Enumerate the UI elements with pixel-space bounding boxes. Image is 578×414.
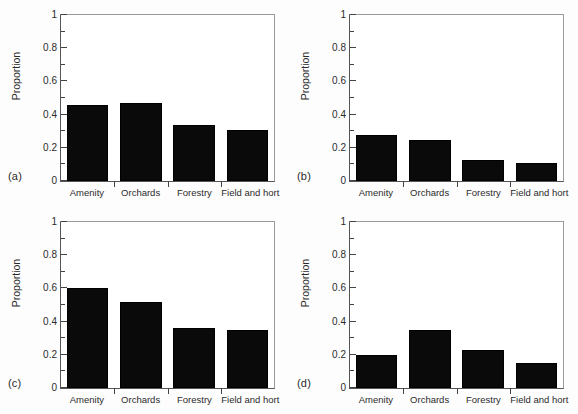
y-axis-title-a: Proportion <box>10 36 22 116</box>
panel-c: (c) Proportion 00.20.40.60.81 AmenityOrc… <box>0 207 289 414</box>
x-axis-labels-b: AmenityOrchardsForestryField and hort <box>349 186 564 202</box>
y-tick-label-b-5: 1 <box>340 10 346 20</box>
y-tick-minor-d-4 <box>350 238 354 239</box>
y-tick-label-c-5: 1 <box>51 217 57 227</box>
x-axis-label-c-3: Field and hort <box>221 393 275 407</box>
plot-area-b: 00.20.40.60.81 <box>349 14 564 182</box>
bar-group-d <box>350 222 563 388</box>
y-tick-major-a-4: 0.8 <box>61 47 67 48</box>
plot-area-a: 00.20.40.60.81 <box>60 14 275 182</box>
x-axis-label-d-1: Orchards <box>403 393 457 407</box>
bar-group-b <box>350 15 563 181</box>
y-tick-major-d-0: 0 <box>350 387 356 388</box>
bar-a-2 <box>173 125 215 181</box>
y-tick-minor-b-0 <box>350 163 354 164</box>
x-axis-labels-a: AmenityOrchardsForestryField and hort <box>60 186 275 202</box>
y-tick-major-b-0: 0 <box>350 180 356 181</box>
bar-slot-a-3 <box>221 15 274 181</box>
y-tick-label-c-2: 0.4 <box>43 317 57 327</box>
panel-label-a: (a) <box>8 170 22 182</box>
y-tick-label-c-3: 0.6 <box>43 283 57 293</box>
bar-slot-d-1 <box>403 222 456 388</box>
y-tick-major-d-5: 1 <box>350 221 356 222</box>
y-tick-label-d-4: 0.8 <box>332 250 346 260</box>
y-tick-label-c-4: 0.8 <box>43 250 57 260</box>
y-tick-major-c-1: 0.2 <box>61 354 67 355</box>
y-tick-major-b-2: 0.4 <box>350 114 356 115</box>
y-tick-major-a-1: 0.2 <box>61 147 67 148</box>
bar-b-0 <box>356 135 398 181</box>
bar-slot-a-2 <box>168 15 221 181</box>
x-axis-label-b-2: Forestry <box>457 186 511 200</box>
y-tick-label-b-4: 0.8 <box>332 43 346 53</box>
y-tick-minor-b-3 <box>350 64 354 65</box>
plot-area-c: 00.20.40.60.81 <box>60 221 275 389</box>
y-tick-label-d-2: 0.4 <box>332 317 346 327</box>
y-tick-label-a-3: 0.6 <box>43 76 57 86</box>
bar-a-1 <box>120 103 162 181</box>
y-tick-label-b-1: 0.2 <box>332 143 346 153</box>
x-axis-label-a-0: Amenity <box>60 186 114 200</box>
y-tick-label-c-0: 0 <box>51 383 57 393</box>
bar-slot-d-2 <box>457 222 510 388</box>
y-tick-minor-d-3 <box>350 271 354 272</box>
bar-c-0 <box>67 288 109 388</box>
y-tick-minor-c-0 <box>61 370 65 371</box>
y-tick-minor-a-1 <box>61 130 65 131</box>
y-tick-major-a-2: 0.4 <box>61 114 67 115</box>
y-tick-major-c-4: 0.8 <box>61 254 67 255</box>
bar-slot-b-1 <box>403 15 456 181</box>
y-tick-minor-b-2 <box>350 97 354 98</box>
y-tick-label-d-1: 0.2 <box>332 350 346 360</box>
bar-slot-b-0 <box>350 15 403 181</box>
bar-b-1 <box>409 140 451 181</box>
y-tick-major-d-2: 0.4 <box>350 321 356 322</box>
y-tick-major-d-3: 0.6 <box>350 287 356 288</box>
bar-slot-c-3 <box>221 222 274 388</box>
x-axis-label-c-0: Amenity <box>60 393 114 407</box>
panel-b: (b) Proportion 00.20.40.60.81 AmenityOrc… <box>289 0 578 207</box>
bar-group-a <box>61 15 274 181</box>
y-tick-label-a-4: 0.8 <box>43 43 57 53</box>
y-tick-minor-d-1 <box>350 337 354 338</box>
y-tick-label-b-2: 0.4 <box>332 110 346 120</box>
y-tick-minor-a-0 <box>61 163 65 164</box>
y-tick-major-c-2: 0.4 <box>61 321 67 322</box>
bar-b-2 <box>462 160 504 181</box>
y-tick-minor-c-4 <box>61 238 65 239</box>
bar-c-2 <box>173 328 215 388</box>
y-tick-minor-b-1 <box>350 130 354 131</box>
y-tick-major-c-5: 1 <box>61 221 67 222</box>
bar-d-1 <box>409 330 451 388</box>
y-axis-title-b: Proportion <box>299 36 311 116</box>
y-tick-label-d-0: 0 <box>340 383 346 393</box>
x-axis-label-c-2: Forestry <box>168 393 222 407</box>
x-axis-label-b-1: Orchards <box>403 186 457 200</box>
y-tick-minor-a-3 <box>61 64 65 65</box>
y-tick-major-d-1: 0.2 <box>350 354 356 355</box>
x-axis-label-b-0: Amenity <box>349 186 403 200</box>
y-tick-major-a-0: 0 <box>61 180 67 181</box>
bar-slot-c-1 <box>114 222 167 388</box>
bar-b-3 <box>516 163 558 181</box>
y-tick-major-c-3: 0.6 <box>61 287 67 288</box>
figure-multi-panel-bar-charts: (a) Proportion 00.20.40.60.81 AmenityOrc… <box>0 0 578 414</box>
y-tick-minor-a-2 <box>61 97 65 98</box>
bar-a-0 <box>67 105 109 181</box>
x-axis-label-a-2: Forestry <box>168 186 222 200</box>
bar-slot-d-0 <box>350 222 403 388</box>
panel-label-b: (b) <box>297 170 311 182</box>
bar-c-1 <box>120 302 162 388</box>
x-axis-label-a-3: Field and hort <box>221 186 275 200</box>
x-axis-label-d-2: Forestry <box>457 393 511 407</box>
plot-area-d: 00.20.40.60.81 <box>349 221 564 389</box>
panel-label-d: (d) <box>297 377 311 389</box>
y-tick-minor-d-0 <box>350 370 354 371</box>
y-tick-major-b-3: 0.6 <box>350 80 356 81</box>
y-axis-title-c: Proportion <box>10 243 22 323</box>
bar-slot-d-3 <box>510 222 563 388</box>
y-tick-label-a-1: 0.2 <box>43 143 57 153</box>
y-tick-label-a-5: 1 <box>51 10 57 20</box>
y-axis-title-d: Proportion <box>299 243 311 323</box>
y-tick-minor-c-3 <box>61 271 65 272</box>
